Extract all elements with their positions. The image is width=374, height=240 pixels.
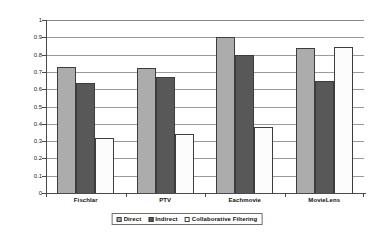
y-axis-tick-label: 0.8 bbox=[18, 52, 42, 58]
bar-collaborative-filtering bbox=[175, 134, 194, 193]
bar-direct bbox=[57, 67, 76, 193]
y-axis-tick-label: 0.5 bbox=[18, 104, 42, 110]
x-axis-category-label: Eachmovie bbox=[228, 197, 261, 203]
y-axis-tick-mark bbox=[42, 37, 46, 38]
y-axis-tick-mark bbox=[42, 193, 46, 194]
bar-direct bbox=[137, 68, 156, 193]
bar-chart: Correlation DirectIndirectCollaborative … bbox=[0, 0, 374, 240]
y-axis-tick-mark bbox=[42, 141, 46, 142]
y-axis-tick-label: 0.9 bbox=[18, 34, 42, 40]
y-axis-tick-label: 0.1 bbox=[18, 173, 42, 179]
bar-group-bars bbox=[126, 20, 206, 193]
bar-direct bbox=[216, 37, 235, 193]
y-axis-tick-mark bbox=[42, 176, 46, 177]
legend-item: Collaborative Filtering bbox=[185, 216, 258, 222]
bar-group bbox=[205, 20, 285, 193]
y-axis-tick-mark bbox=[42, 72, 46, 73]
bar-groups bbox=[46, 20, 364, 193]
bar-indirect bbox=[156, 77, 175, 193]
legend-swatch-icon bbox=[185, 217, 190, 222]
legend-item: Indirect bbox=[148, 216, 177, 222]
y-axis-tick-label: 0 bbox=[18, 190, 42, 196]
bar-indirect bbox=[315, 81, 334, 193]
y-axis-tick-label: 0.7 bbox=[18, 69, 42, 75]
legend-swatch-icon bbox=[148, 217, 153, 222]
y-axis-tick-label: 1 bbox=[18, 17, 42, 23]
bar-indirect bbox=[235, 55, 254, 193]
bar-group-bars bbox=[285, 20, 365, 193]
bar-direct bbox=[296, 48, 315, 193]
legend-item: Direct bbox=[117, 216, 142, 222]
bar-group-bars bbox=[46, 20, 126, 193]
y-axis-tick-mark bbox=[42, 20, 46, 21]
bar-collaborative-filtering bbox=[254, 127, 273, 193]
bar-collaborative-filtering bbox=[95, 138, 114, 193]
plot-area bbox=[46, 20, 364, 193]
bar-group bbox=[285, 20, 365, 193]
y-axis-tick-label: 0.4 bbox=[18, 121, 42, 127]
bar-group-bars bbox=[205, 20, 285, 193]
bar-group bbox=[126, 20, 206, 193]
bar-collaborative-filtering bbox=[334, 47, 353, 193]
y-axis-tick-mark bbox=[42, 158, 46, 159]
legend-label: Direct bbox=[124, 216, 142, 222]
y-axis-tick-mark bbox=[42, 89, 46, 90]
y-axis-tick-mark bbox=[42, 55, 46, 56]
bar-indirect bbox=[76, 83, 95, 193]
x-axis-category-label: Fischlar bbox=[74, 197, 98, 203]
y-axis-tick-mark bbox=[42, 107, 46, 108]
y-axis-tick-label: 0.3 bbox=[18, 138, 42, 144]
x-axis-category-label: MovieLens bbox=[308, 197, 340, 203]
x-axis-category-label: PTV bbox=[159, 197, 171, 203]
bar-group bbox=[46, 20, 126, 193]
x-axis-line bbox=[46, 193, 366, 194]
legend-label: Collaborative Filtering bbox=[192, 216, 258, 222]
chart-legend: DirectIndirectCollaborative Filtering bbox=[112, 213, 263, 225]
legend-label: Indirect bbox=[155, 216, 177, 222]
legend-swatch-icon bbox=[117, 217, 122, 222]
y-axis-tick-label: 0.6 bbox=[18, 86, 42, 92]
y-axis-tick-label: 0.2 bbox=[18, 155, 42, 161]
y-axis-tick-mark bbox=[42, 124, 46, 125]
y-axis-line bbox=[46, 20, 47, 193]
